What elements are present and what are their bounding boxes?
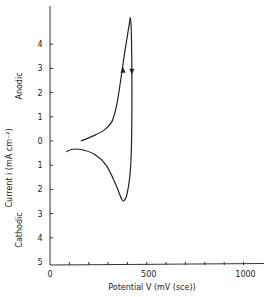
y-tick-label: 4 bbox=[37, 40, 42, 49]
series-anodic-sweep bbox=[81, 18, 130, 141]
y-axis-title: Current i (mA cm⁻²) bbox=[5, 128, 14, 207]
y-tick-label: 3 bbox=[37, 64, 42, 73]
x-axis-title: Potential V (mV (sce)) bbox=[108, 283, 195, 292]
arrow-up-icon bbox=[120, 67, 125, 73]
y-tick-label: 4 bbox=[37, 234, 42, 243]
y-tick-label: 0 bbox=[37, 137, 42, 146]
y-tick-label: 3 bbox=[37, 210, 42, 219]
x-tick-label: 0 bbox=[47, 270, 52, 279]
y-axis-label-anodic: Anodic bbox=[15, 72, 24, 99]
y-axis-label-cathodic: Cathodic bbox=[15, 212, 24, 247]
y-tick-label: 1 bbox=[37, 161, 42, 170]
y-tick-label: 2 bbox=[37, 89, 42, 98]
y-tick-label: 5 bbox=[37, 258, 42, 267]
polarization-chart: 05001000 4321012345 Potential V (mV (sce… bbox=[0, 0, 264, 297]
y-tick-label: 2 bbox=[37, 185, 42, 194]
x-axis bbox=[50, 264, 264, 266]
axes bbox=[50, 6, 264, 265]
x-tick-labels: 05001000 bbox=[47, 270, 255, 279]
x-tick-label: 1000 bbox=[235, 270, 255, 279]
x-tick-label: 500 bbox=[141, 270, 156, 279]
series bbox=[66, 18, 131, 201]
y-tick-labels: 4321012345 bbox=[37, 40, 42, 267]
series-return-sweep bbox=[66, 18, 131, 201]
arrow-down-icon bbox=[129, 69, 134, 75]
y-tick-label: 1 bbox=[37, 113, 42, 122]
